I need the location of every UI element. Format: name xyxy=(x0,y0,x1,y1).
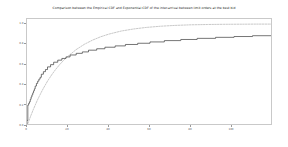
y-tick-label: 0.6 xyxy=(4,62,24,65)
chart-figure: Comparison between the Empirical CDF and… xyxy=(0,0,288,147)
x-tick-label: 20 xyxy=(65,128,68,131)
x-tick-label: 80 xyxy=(188,128,191,131)
chart-title: Comparison between the Empirical CDF and… xyxy=(0,6,288,10)
y-tick-mark xyxy=(24,64,26,65)
y-tick-label: 0.4 xyxy=(4,83,24,86)
y-tick-label: 0.8 xyxy=(4,42,24,45)
y-tick-mark xyxy=(24,23,26,24)
plot-area xyxy=(26,18,272,125)
y-tick-label: 0.0 xyxy=(4,124,24,127)
y-tick-mark xyxy=(24,104,26,105)
series-line-exponential-cdf xyxy=(27,24,272,125)
y-tick-label: 0.2 xyxy=(4,103,24,106)
x-tick-label: 0 xyxy=(25,128,27,131)
plot-canvas xyxy=(27,19,272,125)
x-tick-label: 60 xyxy=(147,128,150,131)
x-tick-label: 40 xyxy=(106,128,109,131)
y-tick-mark xyxy=(24,43,26,44)
y-tick-mark xyxy=(24,84,26,85)
y-tick-label: 1.0 xyxy=(4,22,24,25)
series-line-empirical-cdf xyxy=(27,36,272,125)
x-tick-label: 100 xyxy=(228,128,233,131)
